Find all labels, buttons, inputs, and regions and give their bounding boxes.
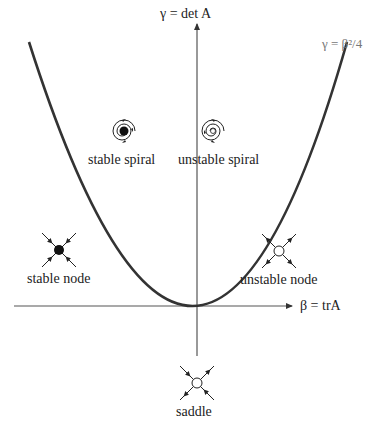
curve-label: γ = β²/4 [322,37,362,50]
stable-spiral-icon [113,119,135,143]
x-axis-label: β = trA [300,299,341,313]
stable-spiral-label: stable spiral [88,153,155,167]
unstable-node-label: unstable node [240,273,317,287]
stable-node-label: stable node [27,272,90,286]
unstable-spiral-icon [202,119,224,143]
saddle-icon [180,366,214,400]
phase-diagram [0,0,391,434]
y-axis-label: γ = det A [160,7,211,21]
unstable-spiral-label: unstable spiral [178,153,259,167]
parabola-curve [29,42,347,306]
stable-node-icon [42,233,76,267]
saddle-label: saddle [176,405,212,419]
unstable-node-icon [262,234,296,268]
